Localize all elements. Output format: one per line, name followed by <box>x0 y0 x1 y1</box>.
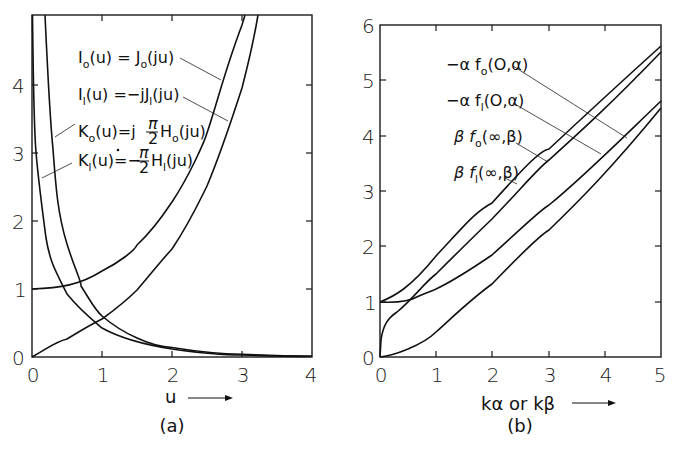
panel-b-x-tick-labels: 0 1 2 3 4 5 <box>375 363 667 387</box>
panel-b: 0 1 2 3 4 5 6 0 1 2 3 4 5 kα or kβ (b) <box>362 14 666 436</box>
panel-a-legend: Io(u) = Jo(ju) II(u) =−jJI(ju) Ko(u)=j π… <box>78 48 206 177</box>
figure: 0 1 2 3 4 0 1 2 3 4 u (a) <box>0 0 673 450</box>
xtick-label: 0 <box>375 363 388 387</box>
label-beta-f0: β fo(∞,β) <box>453 127 523 150</box>
label-K0-rest: Ho(ju) <box>160 122 206 145</box>
panel-b-legend: −α fo(O,α) −α fI(O,α) β fo(∞,β) β fI(∞,β… <box>446 55 528 185</box>
xtick-label: 5 <box>654 363 667 387</box>
panel-a-y-tick-labels: 0 1 2 3 4 <box>12 74 27 370</box>
ytick-label: 6 <box>362 14 375 38</box>
ytick-label: 0 <box>362 346 375 370</box>
panel-b-x-label: kα or kβ <box>481 393 555 414</box>
xtick-label: 1 <box>97 363 110 387</box>
panel-b-frame <box>380 25 661 357</box>
ytick-label: 1 <box>364 291 377 315</box>
panel-b-y-ticks <box>380 80 661 302</box>
label-K0: Ko(u)=j <box>78 122 136 145</box>
arrow-right-icon <box>572 400 616 406</box>
ytick-label: 4 <box>12 74 25 98</box>
arrow-right-icon <box>188 395 233 401</box>
ytick-label: 5 <box>362 69 375 93</box>
xtick-label: 1 <box>431 363 444 387</box>
xtick-label: 4 <box>600 363 613 387</box>
xtick-label: 2 <box>487 363 500 387</box>
panel-b-leaders <box>505 66 627 184</box>
label-I0: Io(u) = Jo(ju) <box>78 48 174 71</box>
xtick-label: 0 <box>27 363 40 387</box>
k1-frac-den: 2 <box>139 158 149 177</box>
ytick-label: 1 <box>14 278 27 302</box>
ytick-label: 3 <box>362 180 375 204</box>
panel-b-caption: (b) <box>507 415 532 436</box>
panel-b-x-ticks <box>436 25 605 357</box>
ytick-label: 4 <box>362 125 375 149</box>
label-K1: KI(u)=− <box>78 151 141 173</box>
panel-b-y-tick-labels: 0 1 2 3 4 5 6 <box>362 14 377 370</box>
xtick-label: 3 <box>237 363 250 387</box>
ytick-label: 2 <box>12 210 25 234</box>
xtick-label: 3 <box>544 363 557 387</box>
xtick-label: 2 <box>167 363 180 387</box>
curve-alpha-f0 <box>380 46 661 302</box>
label-I1: II(u) =−jJI(ju) <box>78 85 179 107</box>
panel-a: 0 1 2 3 4 0 1 2 3 4 u (a) <box>12 15 317 436</box>
ytick-label: 0 <box>12 346 25 370</box>
panel-a-y-ticks <box>32 85 312 289</box>
panel-a-caption: (a) <box>159 415 184 436</box>
label-K1-rest: HI(ju) <box>151 151 193 173</box>
panel-a-x-tick-labels: 0 1 2 3 4 <box>27 363 318 387</box>
ytick-label: 3 <box>12 142 25 166</box>
panel-a-x-label: u <box>165 386 176 407</box>
k0-frac-den: 2 <box>148 129 158 148</box>
ytick-label: 2 <box>362 235 375 259</box>
xtick-label: 4 <box>305 363 318 387</box>
label-alpha-f0: −α fo(O,α) <box>446 55 528 78</box>
label-beta-f1: β fI(∞,β) <box>453 163 519 185</box>
label-alpha-f1: −α fI(O,α) <box>446 91 524 113</box>
